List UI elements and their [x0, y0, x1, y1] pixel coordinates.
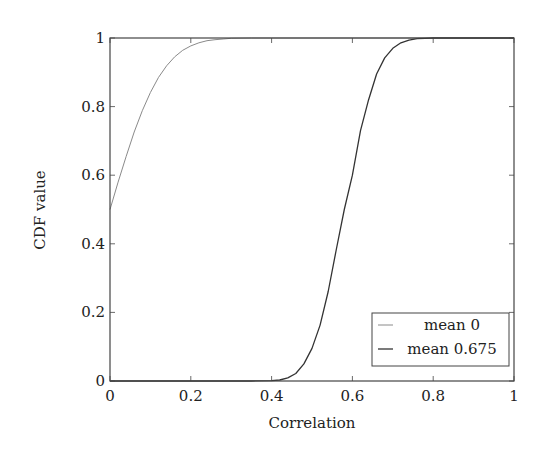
y-tick-label: 1 [95, 29, 105, 47]
cdf-chart: 00.20.40.60.8100.20.40.60.81 Correlation… [0, 0, 547, 455]
y-tick-label: 0.8 [81, 98, 105, 116]
legend-label-mean-0: mean 0 [424, 316, 480, 334]
y-axis-label: CDF value [31, 170, 49, 250]
x-tick-label: 0.8 [421, 387, 445, 405]
x-axis-label: Correlation [269, 414, 356, 432]
legend: mean 0 mean 0.675 [372, 313, 509, 366]
y-tick-label: 0.4 [81, 235, 105, 253]
x-tick-label: 0 [105, 387, 115, 405]
y-tick-label: 0.2 [81, 303, 105, 321]
y-tick-label: 0 [95, 372, 105, 390]
x-tick-label: 0.2 [179, 387, 203, 405]
y-tick-label: 0.6 [81, 166, 105, 184]
x-tick-label: 0.4 [260, 387, 284, 405]
series-line-mean-0 [110, 38, 514, 210]
x-tick-label: 1 [509, 387, 519, 405]
legend-label-mean-0675: mean 0.675 [407, 340, 496, 358]
x-tick-label: 0.6 [340, 387, 364, 405]
